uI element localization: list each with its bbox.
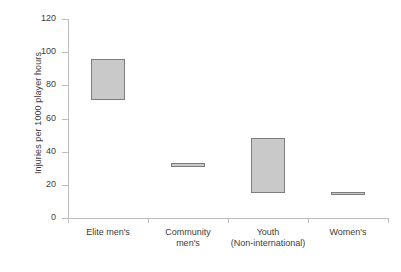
y-tick-label: 60 (16, 114, 56, 123)
x-axis-label-line: men's (142, 238, 234, 249)
injury-rate-range-chart: Injuries per 1000 player hours 020406080… (0, 0, 401, 272)
y-tick-label: 0 (16, 213, 56, 222)
y-tick-label: 40 (16, 147, 56, 156)
y-tick-mark (62, 152, 69, 153)
x-axis-label-line: (Non-international) (222, 238, 314, 249)
x-axis-label-line: Community (165, 227, 211, 237)
y-tick-mark (62, 52, 69, 53)
range-bar (91, 59, 125, 100)
y-tick-mark (62, 85, 69, 86)
x-axis-label: Women's (302, 227, 394, 238)
x-tick-mark (228, 218, 229, 223)
x-axis-label: Communitymen's (142, 227, 234, 249)
y-tick-label: 100 (16, 47, 56, 56)
y-tick-mark (62, 119, 69, 120)
x-axis-label-line: Elite men's (86, 227, 130, 237)
y-tick-label: 80 (16, 80, 56, 89)
x-tick-mark (388, 218, 389, 223)
y-tick-mark (62, 185, 69, 186)
x-tick-mark (68, 218, 69, 223)
y-tick-label: 120 (16, 14, 56, 23)
range-bar (331, 192, 365, 195)
x-axis-label-line: Youth (257, 227, 280, 237)
y-tick-mark (62, 19, 69, 20)
x-axis-label: Elite men's (62, 227, 154, 238)
x-tick-mark (308, 218, 309, 223)
x-axis-label: Youth(Non-international) (222, 227, 314, 249)
x-tick-mark (148, 218, 149, 223)
y-tick-label: 20 (16, 180, 56, 189)
x-axis-label-line: Women's (329, 227, 366, 237)
range-bar (251, 138, 285, 193)
range-bar (171, 163, 205, 166)
